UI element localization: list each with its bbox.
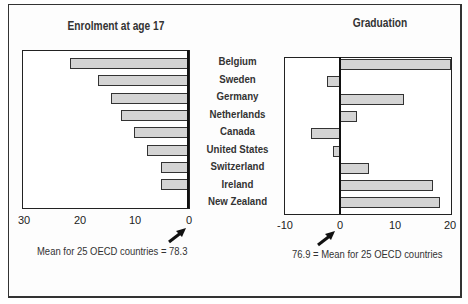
category-label: New Zealand [196, 195, 280, 207]
category-label: Switzerland [196, 160, 280, 172]
left-tick-30: 30 [18, 214, 30, 226]
category-label: Belgium [196, 55, 280, 67]
left-mean-note: Mean for 25 OECD countries = 78.3 [37, 245, 187, 257]
category-label: Germany [196, 90, 280, 102]
right-bar [311, 128, 340, 139]
right-tick-0: 0 [337, 219, 343, 231]
right-bar [340, 197, 440, 208]
right-bar [340, 111, 357, 122]
right-zero-axis [339, 57, 341, 214]
right-bar [340, 59, 451, 70]
left-bar [147, 145, 188, 156]
left-chart-title: Enrolment at age 17 [57, 19, 176, 33]
right-bar [340, 163, 369, 174]
right-bar [340, 180, 433, 191]
right-plot-area [284, 57, 452, 215]
left-bar [98, 75, 188, 86]
category-label: Sweden [196, 73, 280, 85]
left-bar [111, 93, 188, 104]
left-bar [161, 162, 188, 173]
category-label: Netherlands [196, 108, 280, 120]
left-zero-axis [187, 50, 189, 208]
right-chart-title: Graduation [329, 16, 431, 30]
left-tick-0: 0 [186, 214, 192, 226]
left-bar [134, 127, 188, 138]
right-bar [340, 94, 404, 105]
right-arrow-icon [317, 229, 337, 247]
left-bar [161, 179, 188, 190]
left-bar [70, 58, 188, 69]
category-label: Ireland [196, 178, 280, 190]
right-tick-20: 20 [444, 219, 456, 231]
left-bar [121, 110, 188, 121]
category-label: United States [196, 143, 280, 155]
left-tick-20: 20 [74, 214, 86, 226]
left-arrow-icon [168, 226, 188, 244]
right-tick-10: 10 [389, 219, 401, 231]
right-mean-note: 76.9 = Mean for 25 OECD countries [292, 248, 442, 260]
right-tick-neg10: -10 [277, 219, 293, 231]
category-label: Canada [196, 125, 280, 137]
right-bar [327, 76, 340, 87]
left-tick-10: 10 [129, 214, 141, 226]
